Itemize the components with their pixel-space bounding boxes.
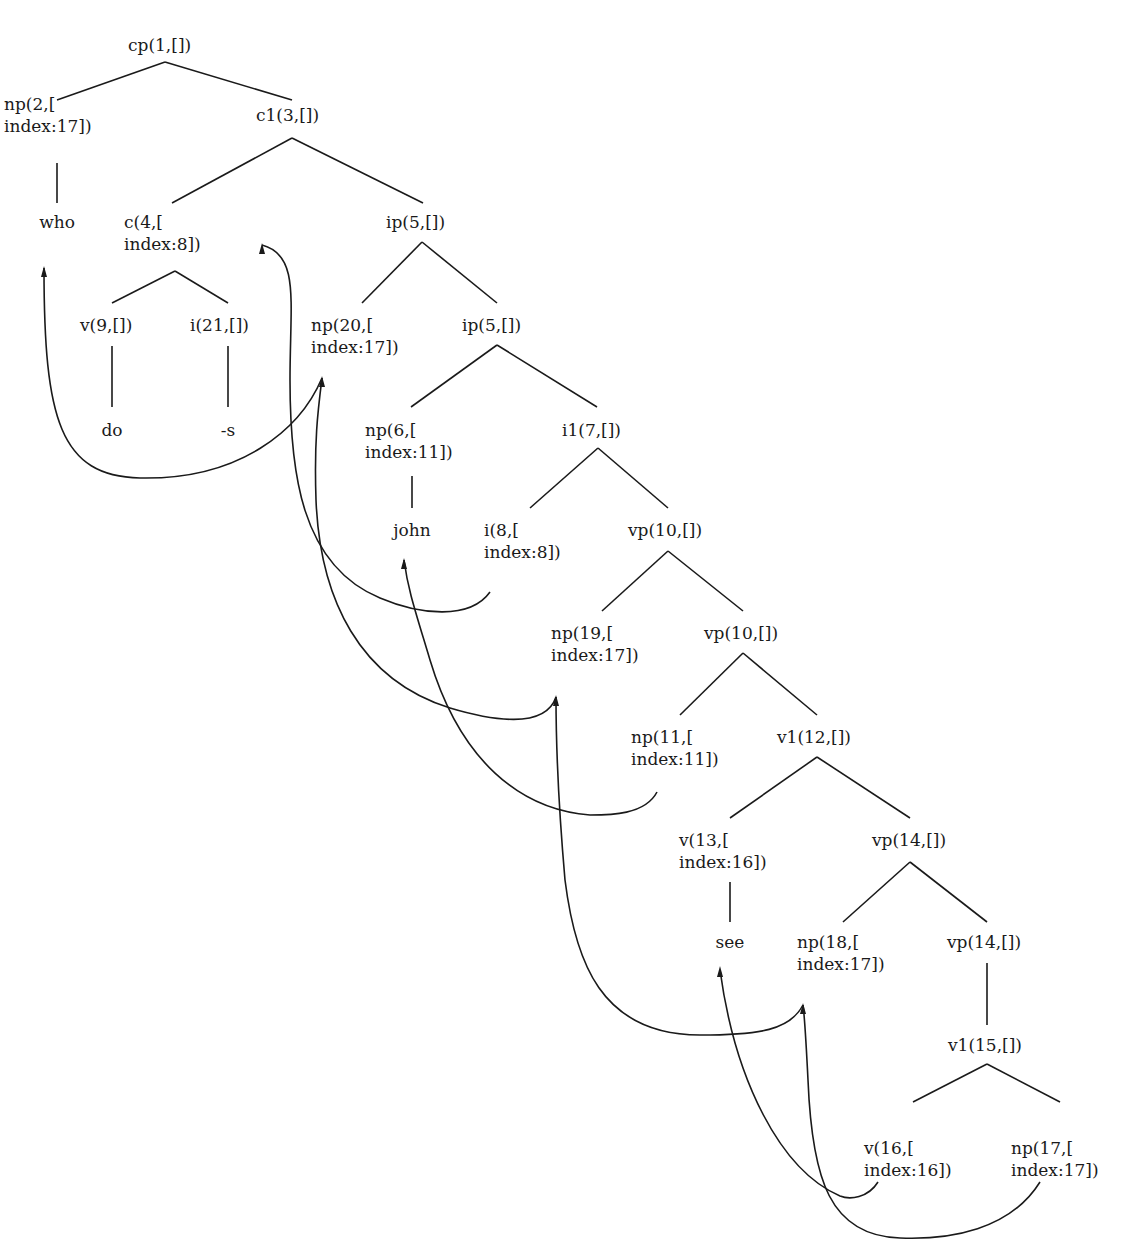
tree-node-np17: np(17,[index:17]) (1011, 1137, 1099, 1181)
node-label-line: vp(14,[]) (872, 829, 946, 851)
tree-node-ip5b: ip(5,[]) (462, 314, 521, 336)
tree-node-vp14a: vp(14,[]) (872, 829, 946, 851)
tree-branch (680, 653, 743, 715)
tree-node-v1_15: v1(15,[]) (948, 1034, 1022, 1056)
node-label-line: index:17]) (311, 336, 399, 358)
node-label-line: v(13,[ (679, 829, 767, 851)
tree-node-np6: np(6,[index:11]) (365, 419, 453, 463)
leaf-word-john: john (393, 519, 430, 541)
node-label-line: ip(5,[]) (386, 211, 445, 233)
node-label-line: np(19,[ (551, 622, 639, 644)
arrowhead-icon (41, 266, 47, 277)
node-label-line: np(2,[ (4, 93, 92, 115)
node-label-line: np(17,[ (1011, 1137, 1099, 1159)
tree-node-np2: np(2,[index:17]) (4, 93, 92, 137)
leaf-word-see: see (716, 931, 745, 953)
node-label-line: do (101, 419, 122, 441)
tree-node-i8: i(8,[index:8]) (484, 519, 561, 563)
arrowhead-icon (717, 966, 723, 977)
tree-node-np18: np(18,[index:17]) (797, 931, 885, 975)
tree-node-v1_12: v1(12,[]) (777, 726, 851, 748)
node-label-line: np(18,[ (797, 931, 885, 953)
node-label-line: index:11]) (365, 441, 453, 463)
tree-node-v16: v(16,[index:16]) (864, 1137, 952, 1181)
node-label-line: vp(10,[]) (704, 622, 778, 644)
node-label-line: index:8]) (124, 233, 201, 255)
node-label-line: i(8,[ (484, 519, 561, 541)
tree-node-v13: v(13,[index:16]) (679, 829, 767, 873)
tree-node-i1_7: i1(7,[]) (562, 419, 621, 441)
tree-node-vp14b: vp(14,[]) (947, 931, 1021, 953)
tree-branch (422, 242, 497, 303)
node-label-line: who (39, 211, 75, 233)
tree-branch (292, 138, 423, 203)
node-label-line: np(11,[ (631, 726, 719, 748)
tree-branch (817, 757, 910, 818)
tree-node-cp1: cp(1,[]) (128, 34, 191, 56)
node-label-line: vp(10,[]) (628, 519, 702, 541)
node-label-line: john (393, 519, 430, 541)
tree-branch (668, 551, 743, 611)
node-label-line: index:11]) (631, 748, 719, 770)
tree-node-c1_3: c1(3,[]) (256, 104, 319, 126)
tree-branch (172, 138, 292, 203)
tree-branch (910, 862, 987, 922)
arrowhead-icon (259, 243, 265, 254)
node-label-line: index:17]) (797, 953, 885, 975)
tree-branch (843, 862, 910, 922)
node-label-line: np(6,[ (365, 419, 453, 441)
tree-branch (497, 345, 597, 407)
tree-branch (530, 448, 598, 508)
node-label-line: index:17]) (551, 644, 639, 666)
tree-branch (602, 551, 668, 611)
arrowhead-icon (401, 558, 407, 569)
node-label-line: vp(14,[]) (947, 931, 1021, 953)
tree-branch (743, 653, 817, 715)
movement-arrow-np11-to-john (404, 560, 657, 815)
tree-node-np20: np(20,[index:17]) (311, 314, 399, 358)
node-label-line: v(16,[ (864, 1137, 952, 1159)
tree-node-v9: v(9,[]) (80, 314, 132, 336)
syntax-tree-diagram: cp(1,[])np(2,[index:17])c1(3,[])whoc(4,[… (0, 0, 1121, 1256)
tree-branch (598, 448, 668, 508)
node-label-line: v1(15,[]) (948, 1034, 1022, 1056)
node-label-line: index:8]) (484, 541, 561, 563)
tree-branch (175, 271, 228, 303)
node-label-line: -s (221, 419, 235, 441)
node-label-line: cp(1,[]) (128, 34, 191, 56)
tree-branch (362, 242, 422, 303)
node-label-line: index:17]) (1011, 1159, 1099, 1181)
tree-branch (913, 1064, 987, 1102)
node-label-line: index:16]) (679, 851, 767, 873)
movement-arrow-np20-to-who (44, 268, 322, 478)
node-label-line: i1(7,[]) (562, 419, 621, 441)
leaf-word-do: do (101, 419, 122, 441)
node-label-line: v1(12,[]) (777, 726, 851, 748)
tree-node-vp10a: vp(10,[]) (628, 519, 702, 541)
tree-branch (411, 345, 497, 407)
node-label-line: v(9,[]) (80, 314, 132, 336)
node-label-line: index:17]) (4, 115, 92, 137)
tree-branch (165, 62, 292, 100)
tree-node-np19: np(19,[index:17]) (551, 622, 639, 666)
node-label-line: np(20,[ (311, 314, 399, 336)
leaf-word-s: -s (221, 419, 235, 441)
node-label-line: i(21,[]) (190, 314, 249, 336)
tree-node-vp10b: vp(10,[]) (704, 622, 778, 644)
tree-node-ip5a: ip(5,[]) (386, 211, 445, 233)
leaf-word-who: who (39, 211, 75, 233)
node-label-line: index:16]) (864, 1159, 952, 1181)
tree-node-np11: np(11,[index:11]) (631, 726, 719, 770)
node-label-line: c1(3,[]) (256, 104, 319, 126)
tree-node-c4: c(4,[index:8]) (124, 211, 201, 255)
tree-node-i21: i(21,[]) (190, 314, 249, 336)
node-label-line: see (716, 931, 745, 953)
tree-branch (112, 271, 175, 303)
tree-branch (987, 1064, 1060, 1102)
node-label-line: c(4,[ (124, 211, 201, 233)
node-label-line: ip(5,[]) (462, 314, 521, 336)
movement-arrow-v16-to-see (720, 970, 878, 1198)
tree-branch (730, 757, 817, 818)
